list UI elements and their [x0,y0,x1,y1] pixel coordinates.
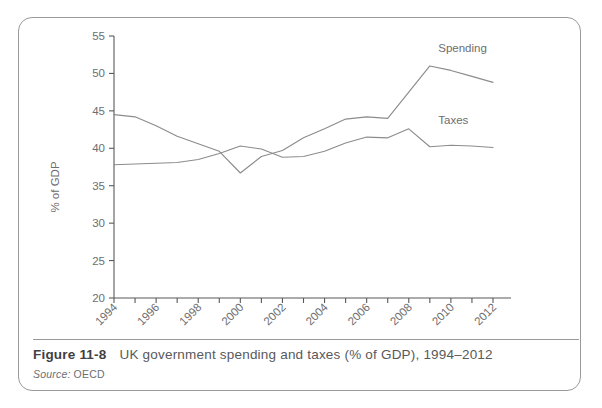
y-axis-title: % of GDP [49,161,61,212]
figure-source-line: Source:OECD [33,368,573,380]
x-tick-label: 1996 [135,301,162,328]
x-tick-label: 1998 [177,301,204,328]
series-line-taxes [114,129,493,165]
x-tick-label: 1994 [93,301,120,328]
y-tick-label: 20 [92,292,105,304]
line-chart: 2025303540455055% of GDP1994199619982000… [19,18,582,338]
figure-frame: 2025303540455055% of GDP1994199619982000… [18,17,581,391]
series-label-spending: Spending [438,42,487,54]
y-tick-label: 30 [92,217,105,229]
figure-number: Figure 11-8 [33,347,106,362]
y-tick-label: 35 [92,180,105,192]
x-tick-label: 2002 [261,301,288,328]
source-value: OECD [74,368,105,380]
y-tick-label: 55 [92,30,105,42]
x-tick-label: 2004 [303,301,330,328]
caption-divider [33,339,579,340]
figure-caption-text: UK government spending and taxes (% of G… [119,347,492,362]
x-tick-label: 2012 [472,301,499,328]
y-tick-label: 50 [92,67,105,79]
y-tick-label: 45 [92,105,105,117]
x-tick-label: 2000 [219,301,246,328]
figure-caption-block: Figure 11-8UK government spending and ta… [33,345,573,380]
chart-plot-area: 2025303540455055% of GDP1994199619982000… [19,18,582,338]
caption-line: Figure 11-8UK government spending and ta… [33,345,573,365]
y-tick-label: 25 [92,255,105,267]
source-label: Source: [33,368,71,380]
x-tick-label: 2008 [388,301,415,328]
x-tick-label: 2010 [430,301,457,328]
y-tick-label: 40 [92,142,105,154]
series-label-taxes: Taxes [438,114,468,126]
x-tick-label: 2006 [345,301,372,328]
